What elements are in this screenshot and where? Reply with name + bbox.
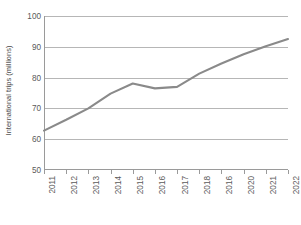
x-tick-label: 2016 bbox=[158, 176, 167, 194]
y-axis-title-text: International trips (millions) bbox=[5, 45, 14, 135]
x-tick-label: 2017 bbox=[181, 176, 190, 194]
x-axis-tick-labels: 2011201220132014201520162017201820162020… bbox=[44, 176, 288, 221]
x-tick-label: 2015 bbox=[136, 176, 145, 194]
x-tick-label: 2018 bbox=[203, 176, 212, 194]
y-axis-tick-labels: 5060708090100 bbox=[18, 0, 44, 180]
y-tick-label: 70 bbox=[32, 104, 41, 113]
x-tick-label: 2020 bbox=[247, 176, 256, 194]
x-tick-label: 2011 bbox=[48, 176, 57, 194]
y-axis-title: International trips (millions) bbox=[0, 0, 18, 180]
plot-area bbox=[44, 16, 288, 170]
x-tick bbox=[155, 170, 156, 174]
x-tick bbox=[244, 170, 245, 174]
x-tick bbox=[66, 170, 67, 174]
x-tick bbox=[133, 170, 134, 174]
data-line bbox=[44, 39, 288, 130]
x-axis-ticks bbox=[44, 170, 288, 175]
x-tick bbox=[177, 170, 178, 174]
y-tick-label: 80 bbox=[32, 73, 41, 82]
x-tick bbox=[266, 170, 267, 174]
x-tick bbox=[111, 170, 112, 174]
x-tick-label: 2016 bbox=[225, 176, 234, 194]
y-tick-label: 60 bbox=[32, 135, 41, 144]
x-tick bbox=[199, 170, 200, 174]
x-tick bbox=[221, 170, 222, 174]
x-tick bbox=[44, 170, 45, 174]
x-tick-label: 2012 bbox=[70, 176, 79, 194]
x-tick bbox=[288, 170, 289, 174]
line-chart: International trips (millions) 506070809… bbox=[0, 0, 301, 225]
x-tick-label: 2014 bbox=[114, 176, 123, 194]
x-tick-label: 2013 bbox=[92, 176, 101, 194]
data-line-svg bbox=[44, 16, 288, 170]
x-tick-label: 2022 bbox=[292, 176, 301, 194]
y-tick-label: 100 bbox=[27, 12, 41, 21]
x-tick bbox=[88, 170, 89, 174]
y-tick-label: 50 bbox=[32, 166, 41, 175]
y-tick-label: 90 bbox=[32, 42, 41, 51]
x-tick-label: 2021 bbox=[269, 176, 278, 194]
